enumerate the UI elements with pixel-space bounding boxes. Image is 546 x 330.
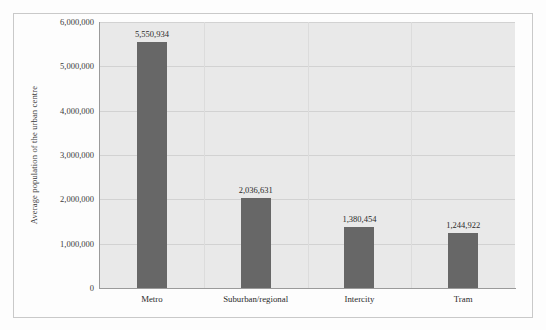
x-axis-tick-labels: MetroSuburban/regionalIntercityTram	[100, 294, 515, 312]
bar-value-label: 1,380,454	[342, 214, 376, 224]
bar-value-label: 2,036,631	[239, 185, 273, 195]
y-axis-title: Average population of the urban centre	[29, 35, 39, 275]
x-axis-tick-label: Tram	[454, 294, 473, 304]
y-axis-tick-label: 2,000,000	[40, 194, 94, 204]
y-axis-tick-label: 0	[40, 283, 94, 293]
plot-area: 5,550,9342,036,6311,380,4541,244,922	[100, 22, 515, 288]
y-axis-tick-labels: 01,000,0002,000,0003,000,0004,000,0005,0…	[40, 22, 94, 288]
x-axis-line	[99, 288, 516, 289]
bar-value-label: 5,550,934	[135, 29, 169, 39]
y-axis-line	[99, 22, 100, 289]
y-axis-tick-label: 5,000,000	[40, 61, 94, 71]
y-axis-tick-label: 6,000,000	[40, 17, 94, 27]
bar	[448, 233, 478, 288]
y-axis-tick-label: 4,000,000	[40, 106, 94, 116]
gridline-vertical	[204, 22, 205, 288]
x-axis-tick-label: Suburban/regional	[223, 294, 288, 304]
x-axis-tick-label: Intercity	[344, 294, 374, 304]
bar-value-label: 1,244,922	[446, 220, 480, 230]
gridline-vertical	[411, 22, 412, 288]
gridline-vertical	[308, 22, 309, 288]
bar	[137, 42, 167, 288]
chart-figure: Average population of the urban centre 0…	[0, 0, 546, 330]
y-axis-tick-label: 3,000,000	[40, 150, 94, 160]
x-axis-tick-label: Metro	[141, 294, 163, 304]
y-axis-tick-label: 1,000,000	[40, 239, 94, 249]
bar	[241, 198, 271, 288]
bar	[344, 227, 374, 288]
